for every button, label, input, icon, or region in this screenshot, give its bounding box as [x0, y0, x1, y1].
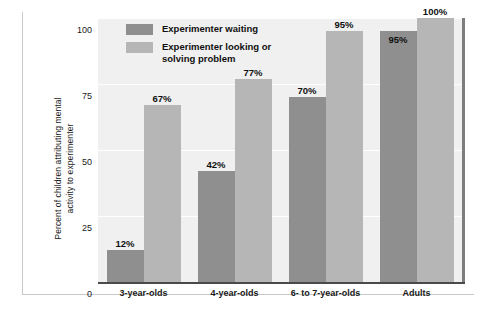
legend-color-swatch: [126, 24, 153, 35]
y-tick-label-75: 75: [82, 91, 92, 101]
x-axis-category-labels: 3-year-olds4-year-olds6- to 7-year-oldsA…: [98, 288, 462, 304]
x-axis-label-3: 6- to 7-year-olds: [291, 288, 361, 298]
legend-label: Experimenter looking or solving problem: [162, 41, 271, 64]
legend-item[interactable]: Experimenter waiting: [126, 23, 271, 35]
bar-value-label: 77%: [243, 67, 262, 78]
y-axis-title-line-1: Percent of children attributing mental: [53, 97, 63, 239]
x-axis-label-4: Adults: [403, 288, 431, 298]
bar-value-label: 95%: [334, 19, 353, 30]
bar-value-label: 100%: [423, 6, 447, 17]
bar-chart-figure: Percent of children attributing mental a…: [0, 0, 493, 317]
y-tick-label-100: 100: [77, 25, 92, 35]
bar[interactable]: 67%: [144, 105, 181, 282]
figure-frame-left-border: [22, 12, 23, 295]
bar[interactable]: 77%: [235, 79, 272, 282]
bar[interactable]: 95%: [380, 31, 417, 282]
bar-group: 95%100%: [380, 18, 454, 282]
bar-value-label: 12%: [115, 238, 134, 249]
plot-area-right-border: [462, 18, 465, 282]
bar-group: 70%95%: [289, 18, 363, 282]
bar[interactable]: 95%: [326, 31, 363, 282]
x-axis-label-1: 3-year-olds: [119, 288, 167, 298]
x-axis-label-2: 4-year-olds: [210, 288, 258, 298]
bar[interactable]: 70%: [289, 97, 326, 282]
bar-value-label: 95%: [388, 34, 407, 45]
bar[interactable]: 12%: [107, 250, 144, 282]
x-axis-baseline: [98, 282, 465, 284]
y-tick-label-50: 50: [82, 157, 92, 167]
bar[interactable]: 42%: [198, 171, 235, 282]
bar-value-label: 42%: [206, 159, 225, 170]
y-tick-label-25: 25: [82, 223, 92, 233]
bar[interactable]: 100%: [417, 18, 454, 282]
legend-color-swatch: [126, 42, 153, 53]
bar-value-label: 67%: [152, 93, 171, 104]
y-tick-label-0: 0: [87, 289, 92, 299]
y-axis-tick-labels: 0255075100: [62, 24, 92, 282]
legend-label: Experimenter waiting: [162, 23, 258, 35]
bar-value-label: 70%: [297, 85, 316, 96]
legend-item[interactable]: Experimenter looking or solving problem: [126, 41, 271, 64]
chart-legend: Experimenter waitingExperimenter looking…: [126, 23, 271, 64]
